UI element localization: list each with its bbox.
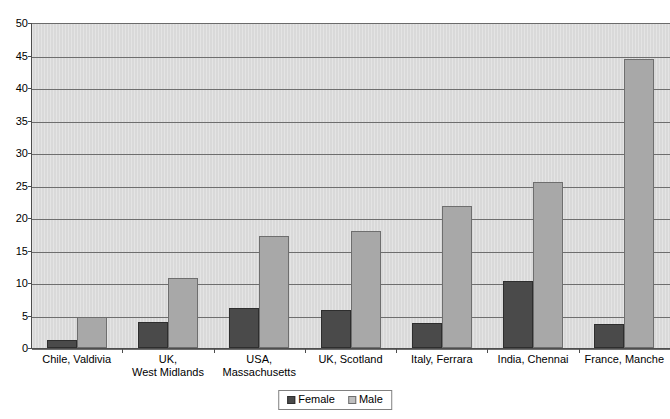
y-tick-label-20: 20 [4, 213, 28, 224]
bar-male-4 [442, 206, 472, 348]
gridline-30 [32, 154, 670, 155]
gridline-40 [32, 89, 670, 90]
x-axis-label-0: Chile, Valdivia [31, 353, 122, 366]
legend-label: Male [359, 394, 383, 405]
bar-male-6 [624, 59, 654, 348]
y-tick-mark-35 [28, 121, 32, 122]
bar-male-3 [351, 231, 381, 348]
gridline-45 [32, 57, 670, 58]
bar-female-5 [503, 281, 533, 348]
bar-female-1 [138, 322, 168, 348]
x-label-line: USA, [214, 353, 305, 366]
y-tick-label-35: 35 [4, 116, 28, 127]
x-label-line: UK, [122, 353, 213, 366]
grouped-bar-chart: 05101520253035404550 Chile, ValdiviaUK,W… [0, 0, 670, 419]
y-tick-label-5: 5 [4, 311, 28, 322]
y-tick-label-15: 15 [4, 246, 28, 257]
gridline-20 [32, 219, 670, 220]
y-tick-mark-45 [28, 56, 32, 57]
x-axis-label-4: Italy, Ferrara [396, 353, 487, 366]
bar-male-1 [168, 278, 198, 348]
y-tick-label-30: 30 [4, 148, 28, 159]
x-label-line: Massachusetts [214, 366, 305, 379]
bar-female-2 [229, 308, 259, 348]
x-axis-line [31, 348, 670, 349]
male-swatch-icon [348, 396, 356, 404]
y-tick-label-50: 50 [4, 18, 28, 29]
bar-female-6 [594, 324, 624, 348]
x-axis-label-5: India, Chennai [487, 353, 578, 366]
y-tick-mark-50 [28, 23, 32, 24]
gridline-0 [32, 349, 670, 350]
bar-male-5 [533, 182, 563, 348]
y-tick-mark-40 [28, 88, 32, 89]
y-tick-mark-30 [28, 153, 32, 154]
bar-female-0 [47, 340, 77, 348]
legend-entry-male: Male [348, 394, 383, 405]
gridline-25 [32, 187, 670, 188]
y-tick-mark-5 [28, 316, 32, 317]
x-label-line: West Midlands [122, 366, 213, 379]
y-tick-label-25: 25 [4, 181, 28, 192]
y-tick-mark-10 [28, 283, 32, 284]
y-tick-label-10: 10 [4, 278, 28, 289]
y-tick-mark-20 [28, 218, 32, 219]
bar-female-4 [412, 323, 442, 348]
female-swatch-icon [287, 396, 295, 404]
x-label-line: UK, Scotland [305, 353, 396, 366]
x-axis-label-6: France, Manche [579, 353, 670, 366]
bar-male-0 [77, 317, 107, 348]
y-tick-mark-25 [28, 186, 32, 187]
chart-legend: FemaleMale [278, 390, 392, 410]
x-label-line: Chile, Valdivia [31, 353, 122, 366]
y-tick-mark-15 [28, 251, 32, 252]
x-label-line: India, Chennai [487, 353, 578, 366]
legend-label: Female [298, 394, 335, 405]
gridline-35 [32, 122, 670, 123]
bar-female-3 [321, 310, 351, 348]
x-axis-label-3: UK, Scotland [305, 353, 396, 366]
y-tick-label-0: 0 [4, 343, 28, 354]
y-axis: 05101520253035404550 [0, 0, 28, 419]
y-tick-label-40: 40 [4, 83, 28, 94]
x-label-line: Italy, Ferrara [396, 353, 487, 366]
x-axis-label-1: UK,West Midlands [122, 353, 213, 379]
bar-male-2 [259, 236, 289, 348]
x-axis-label-2: USA,Massachusetts [214, 353, 305, 379]
legend-entry-female: Female [287, 394, 335, 405]
x-label-line: France, Manche [579, 353, 670, 366]
y-tick-label-45: 45 [4, 51, 28, 62]
